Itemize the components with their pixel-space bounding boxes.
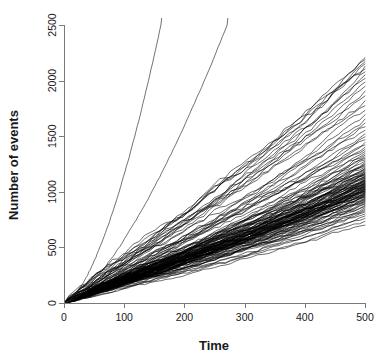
- y-axis-title: Number of events: [6, 110, 21, 220]
- trajectory-line: [64, 60, 365, 303]
- y-axis-ticks: 05001000150020002500: [46, 13, 64, 306]
- y-tick-label: 0: [46, 300, 58, 306]
- y-tick-label: 1000: [46, 180, 58, 204]
- y-tick-label: 2000: [46, 69, 58, 93]
- y-tick-label: 500: [46, 238, 58, 256]
- y-axis: 05001000150020002500: [46, 13, 65, 306]
- x-axis-ticks: 0100200300400500: [61, 303, 374, 323]
- x-tick-label: 500: [356, 311, 374, 323]
- x-axis: 0100200300400500: [61, 303, 374, 323]
- line-chart-plot: 05001000150020002500 0100200300400500 Ti…: [0, 0, 390, 364]
- y-tick-label: 2500: [46, 13, 58, 37]
- trajectory-line: [64, 145, 365, 303]
- trajectory-lines: [64, 0, 365, 303]
- x-tick-label: 400: [296, 311, 314, 323]
- x-tick-label: 0: [61, 311, 67, 323]
- x-axis-title: Time: [199, 338, 229, 353]
- x-tick-label: 100: [115, 311, 133, 323]
- trajectory-line-steep-1: [64, 0, 164, 303]
- chart-container: 05001000150020002500 0100200300400500 Ti…: [0, 0, 390, 364]
- x-tick-label: 300: [236, 311, 254, 323]
- x-tick-label: 200: [176, 311, 194, 323]
- y-tick-label: 1500: [46, 124, 58, 148]
